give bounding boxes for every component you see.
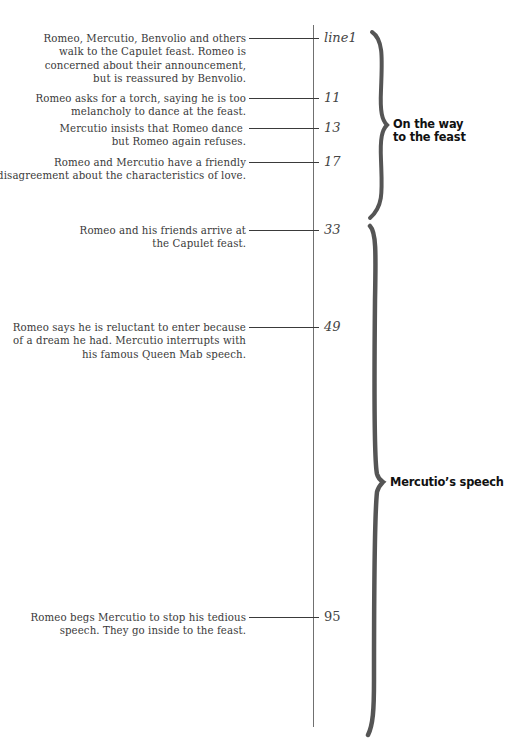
section-braces [0, 0, 509, 746]
brace-on-the-way [370, 32, 387, 218]
section-label-line: Mercutio’s speech [390, 476, 504, 489]
section-label-mercutios-speech: Mercutio’s speech [390, 476, 504, 489]
section-label-on-the-way: On the way to the feast [393, 118, 466, 144]
brace-mercutios-speech [368, 226, 383, 735]
section-label-line: to the feast [393, 131, 466, 144]
